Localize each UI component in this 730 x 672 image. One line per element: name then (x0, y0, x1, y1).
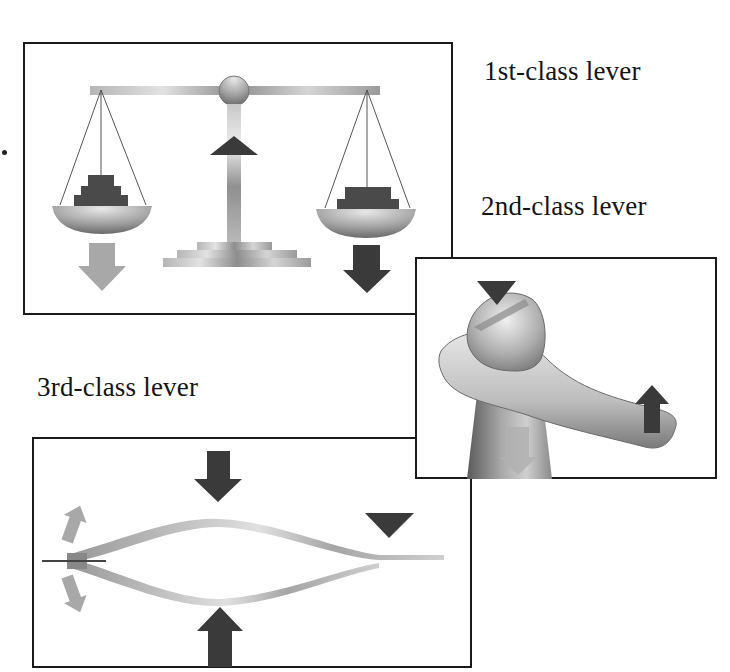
fulcrum-triangle-icon (365, 513, 414, 538)
left-weights (74, 195, 128, 206)
fulcrum-triangle-icon (210, 136, 258, 155)
bottle-opener-illustration (417, 259, 719, 481)
load-arrow-down-icon (343, 245, 391, 293)
effort-arrow-down-icon (78, 243, 126, 291)
third-class-lever-panel (32, 437, 472, 668)
second-class-lever-label: 2nd-class lever (481, 191, 647, 222)
tweezers-lower-arm (74, 561, 379, 606)
left-pan (52, 206, 152, 234)
third-class-lever-label: 3rd-class lever (37, 372, 198, 403)
load-arrow-up-left-icon (56, 502, 92, 546)
margin-dot (2, 150, 7, 155)
base (163, 258, 311, 267)
first-class-lever-panel (23, 42, 453, 315)
load-arrow-down-left-icon (56, 572, 92, 616)
post (227, 104, 241, 242)
right-weights (337, 199, 399, 209)
bottle-cap (467, 293, 545, 371)
balance-scale-illustration (25, 44, 455, 317)
effort-arrow-up-icon (197, 607, 243, 667)
second-class-lever-panel (415, 257, 717, 479)
right-pan (316, 209, 416, 238)
pivot-icon (219, 76, 249, 106)
first-class-lever-label: 1st-class lever (484, 56, 641, 87)
tweezers-illustration (34, 439, 474, 670)
effort-arrow-down-icon (194, 451, 242, 502)
